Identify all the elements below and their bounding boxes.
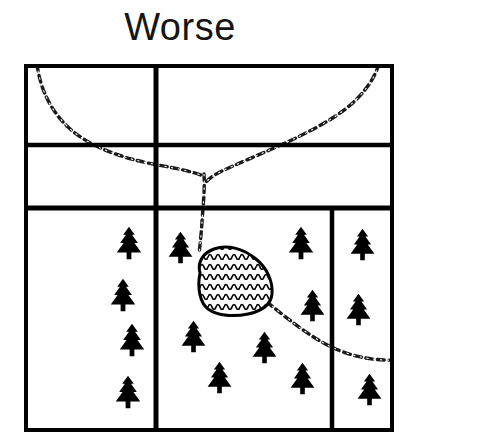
parcel-group [26,66,392,430]
parcel-mid-right[interactable] [156,145,392,208]
parcel-mid-left[interactable] [26,145,156,208]
parcel-top-left[interactable] [26,66,156,145]
figure-container: Worse [0,0,486,443]
landscape-map [0,0,486,443]
parcel-top-right[interactable] [156,66,392,145]
